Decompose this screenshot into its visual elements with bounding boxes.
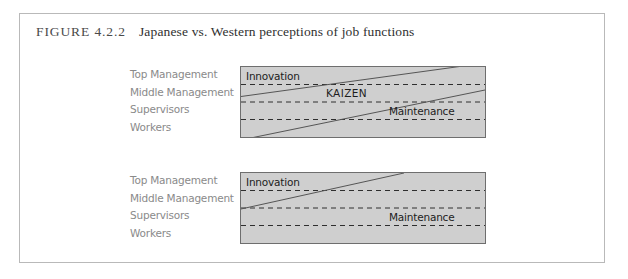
figure-caption: FIGURE 4.2.2Japanese vs. Western percept…: [36, 24, 415, 40]
zone-label-innovation: Innovation: [246, 176, 300, 188]
figure-caption-text: Japanese vs. Western perceptions of job …: [139, 24, 415, 39]
zone-label-kaizen: KAIZEN: [326, 87, 367, 99]
label-top-management: Top Management: [130, 172, 234, 190]
zone-label-maintenance: Maintenance: [389, 105, 454, 117]
label-middle-management: Middle Management: [130, 84, 234, 102]
label-workers: Workers: [130, 225, 234, 243]
hierarchy-labels-japanese: Top Management Middle Management Supervi…: [130, 66, 234, 136]
label-top-management: Top Management: [130, 66, 234, 84]
label-workers: Workers: [130, 119, 234, 137]
chart-box-western: Innovation Maintenance: [240, 172, 486, 244]
label-supervisors: Supervisors: [130, 207, 234, 225]
hierarchy-labels-western: Top Management Middle Management Supervi…: [130, 172, 234, 242]
label-supervisors: Supervisors: [130, 101, 234, 119]
figure-label: FIGURE 4.2.2: [36, 24, 126, 39]
zone-label-maintenance: Maintenance: [389, 211, 454, 223]
chart-box-japanese: Innovation KAIZEN Maintenance: [240, 66, 486, 138]
label-middle-management: Middle Management: [130, 190, 234, 208]
figure-root: FIGURE 4.2.2Japanese vs. Western percept…: [0, 0, 628, 279]
zone-label-innovation: Innovation: [246, 70, 300, 82]
